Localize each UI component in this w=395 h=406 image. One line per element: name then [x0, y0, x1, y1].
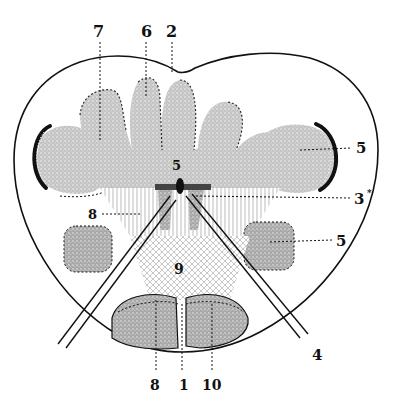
label-6: 6	[141, 22, 152, 41]
left-square-nucleus	[64, 226, 112, 272]
label-3: 3	[354, 190, 364, 208]
label-1: 1	[179, 377, 189, 393]
label-8-left: 8	[88, 207, 97, 222]
label-5-right-ear: 5	[356, 139, 366, 157]
central-canal	[176, 178, 184, 194]
label-5-center: 5	[172, 158, 181, 173]
label-7: 7	[93, 22, 104, 41]
label-3-star: *	[367, 188, 372, 198]
label-9: 9	[174, 261, 184, 277]
label-2: 2	[166, 22, 177, 41]
decussation	[130, 236, 250, 300]
label-8-bottom: 8	[150, 377, 160, 393]
label-5-right-square: 5	[336, 232, 346, 250]
label-4: 4	[312, 346, 322, 364]
right-square-nucleus	[244, 222, 294, 270]
label-10: 10	[202, 377, 222, 393]
anatomical-diagram: 7 6 2 5 5 3 * 8 5 9 4 8 1 10	[0, 0, 395, 406]
right-lateral-nucleus	[258, 124, 336, 193]
